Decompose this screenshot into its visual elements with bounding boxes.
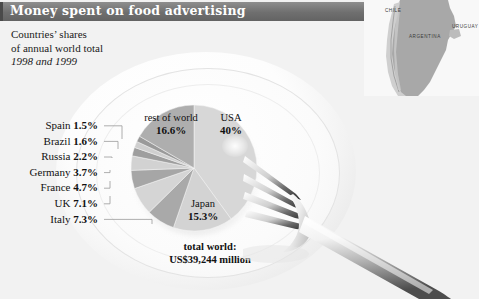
legend-row: France 4.7%: [0, 180, 104, 196]
legend-row: Italy 7.3%: [0, 212, 104, 228]
infographic-panel: Money spent on food advertising Countrie…: [0, 0, 479, 299]
map-inset: CHILE ARGENTINA URUGUAY: [364, 0, 479, 96]
legend-country-value: 2.2%: [73, 150, 98, 162]
legend-country-name: Italy: [50, 213, 70, 225]
total-world-caption: total world: US$39,244 million: [134, 241, 286, 266]
subtitle-line-3: 1998 and 1999: [11, 55, 103, 69]
legend-country-name: Brazil: [44, 135, 71, 147]
country-legend: Spain 1.5% Brazil 1.6% Russia 2.2% Germa…: [0, 118, 104, 227]
legend-country-value: 1.6%: [73, 135, 98, 147]
subtitle-line-2: of annual world total: [11, 42, 103, 56]
legend-country-value: 7.3%: [73, 213, 98, 225]
pie-slice-label-rest-of-world: rest of world 16.6%: [134, 112, 208, 137]
legend-country-value: 4.7%: [73, 181, 98, 193]
legend-country-value: 3.7%: [73, 166, 98, 178]
legend-country-name: UK: [55, 197, 71, 209]
legend-row: Germany 3.7%: [0, 165, 104, 181]
pie-slice-value-japan: 15.3%: [188, 210, 218, 222]
pie-slice-name-japan: Japan: [191, 198, 215, 209]
legend-country-name: Spain: [45, 119, 70, 131]
legend-row: Russia 2.2%: [0, 149, 104, 165]
page-title: Money spent on food advertising: [10, 3, 246, 18]
legend-row: Brazil 1.6%: [0, 134, 104, 150]
map-label-chile: CHILE: [385, 8, 401, 13]
total-world-label: total world:: [134, 241, 286, 254]
map-label-uruguay: URUGUAY: [452, 24, 478, 29]
pie-slice-label-usa: USA 40%: [206, 112, 256, 137]
pie-slice-name-usa: USA: [220, 112, 241, 123]
legend-country-name: France: [41, 181, 71, 193]
pie-slice-label-japan: Japan 15.3%: [176, 198, 230, 223]
map-svg: [364, 0, 479, 96]
legend-country-name: Germany: [30, 166, 71, 178]
legend-country-value: 7.1%: [73, 197, 98, 209]
pie-slice-value-rest-of-world: 16.6%: [156, 124, 186, 136]
legend-country-name: Russia: [41, 150, 70, 162]
subtitle-line-1: Countries’ shares: [11, 28, 103, 42]
legend-row: Spain 1.5%: [0, 118, 104, 134]
legend-row: UK 7.1%: [0, 196, 104, 212]
subtitle-block: Countries’ shares of annual world total …: [11, 28, 103, 69]
pie-slice-name-rest-of-world: rest of world: [144, 112, 198, 123]
total-world-value: US$39,244 million: [134, 254, 286, 267]
legend-country-value: 1.5%: [73, 119, 98, 131]
map-label-argentina: ARGENTINA: [409, 34, 441, 39]
pie-slice-value-usa: 40%: [220, 124, 242, 136]
